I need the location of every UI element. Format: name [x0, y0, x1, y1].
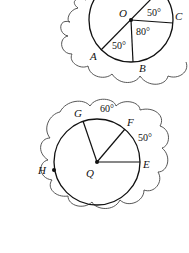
label-e: E — [142, 158, 150, 170]
center-q-dot — [95, 160, 99, 164]
label-q: Q — [86, 167, 94, 179]
label-f: F — [126, 116, 134, 128]
angle-label-80: 80° — [136, 26, 150, 37]
label-c: C — [175, 10, 183, 22]
geometry-diagram: O C B A 50° 80° 50° Q E F G H 60° 50° — [0, 0, 189, 253]
label-b: B — [139, 62, 146, 74]
angle-label-50-lower: 50° — [112, 40, 126, 51]
angle-label-50-upper: 50° — [147, 7, 161, 18]
label-a: A — [89, 50, 97, 62]
segment-qg — [83, 121, 97, 162]
label-h: H — [37, 164, 47, 176]
angle-label-60: 60° — [100, 103, 114, 114]
segment-qf — [97, 129, 125, 162]
segment-oc — [131, 20, 173, 23]
segment-ob — [131, 20, 133, 62]
center-o-dot — [129, 18, 133, 22]
label-g: G — [74, 107, 82, 119]
angle-label-50: 50° — [138, 132, 152, 143]
point-h-dot — [52, 168, 56, 172]
label-o: O — [119, 7, 127, 19]
